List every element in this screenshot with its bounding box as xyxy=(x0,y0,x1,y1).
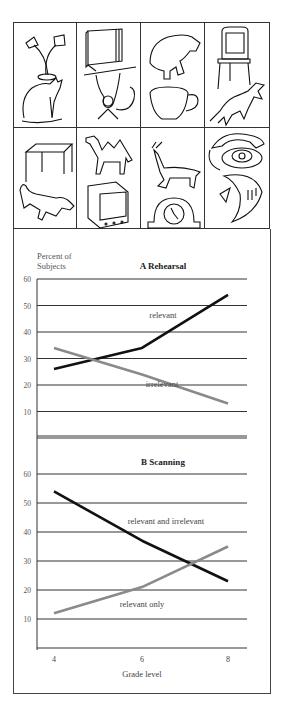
y-tick-label: 10 xyxy=(24,615,32,624)
y-tick-label: 50 xyxy=(24,499,32,508)
y-tick-label: 30 xyxy=(24,557,32,566)
y-axis-title-line2: Subjects xyxy=(37,261,66,271)
chart-b-title: B Scanning xyxy=(141,457,185,467)
x-tick-label: 4 xyxy=(52,655,56,664)
y-axis-title-line1: Percent of xyxy=(37,251,72,261)
x-tick-label: 8 xyxy=(226,655,230,664)
chart-a-title: A Rehearsal xyxy=(140,261,187,271)
chart-a-rehearsal: 102030405060 xyxy=(24,275,248,438)
y-tick-label: 60 xyxy=(24,470,32,479)
charts: Percent of Subjects A Rehearsal B Scanni… xyxy=(0,0,281,713)
x-axis-title: Grade level xyxy=(122,669,162,679)
y-tick-label: 10 xyxy=(24,408,32,417)
series-label-relevant-only: relevant only xyxy=(120,599,165,609)
y-tick-label: 20 xyxy=(24,381,32,390)
series-label-relevant-and-irrelevant: relevant and irrelevant xyxy=(128,516,205,526)
y-tick-label: 30 xyxy=(24,355,32,364)
y-tick-label: 40 xyxy=(24,528,32,537)
y-tick-label: 50 xyxy=(24,302,32,311)
x-tick-labels: 468 xyxy=(52,655,230,664)
x-tick-label: 6 xyxy=(140,655,144,664)
chart-b-scanning: 102030405060 xyxy=(24,436,248,648)
series-line xyxy=(54,348,228,404)
series-label-irrelevant: irrelevant xyxy=(146,379,179,389)
series-label-relevant: relevant xyxy=(149,310,177,320)
y-tick-label: 40 xyxy=(24,328,32,337)
y-tick-label: 20 xyxy=(24,586,32,595)
series-line xyxy=(54,491,228,581)
y-tick-label: 60 xyxy=(24,275,32,284)
